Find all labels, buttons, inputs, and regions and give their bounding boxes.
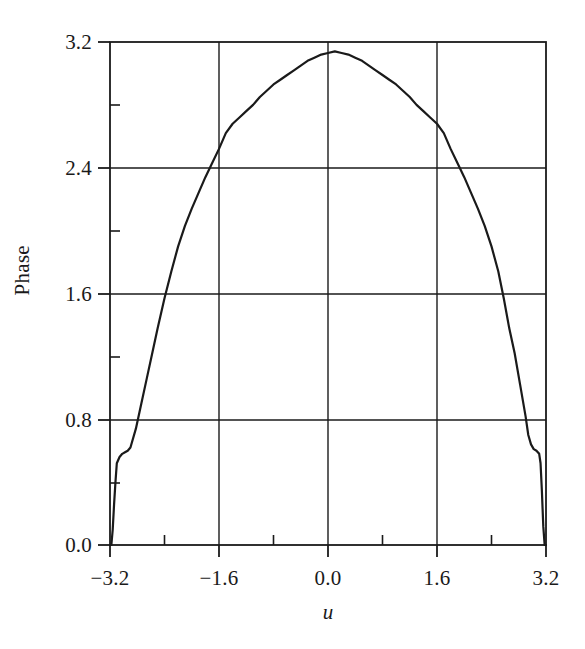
xtick-label-1.6: 1.6 [424,566,451,591]
xtick-label-0.0: 0.0 [315,566,342,591]
chart-figure: 3.2 2.4 1.6 0.8 0.0 −3.2 −1.6 0.0 1.6 3.… [0,0,585,649]
ytick-label-2.4: 2.4 [20,156,92,181]
ytick-label-0.0: 0.0 [20,533,92,558]
ytick-label-3.2: 3.2 [20,30,92,55]
ytick-label-0.8: 0.8 [20,408,92,433]
xtick-label--1.6: −1.6 [200,566,239,591]
xtick-label-3.2: 3.2 [533,566,560,591]
xtick-label--3.2: −3.2 [91,566,130,591]
x-axis-label: u [323,600,334,625]
y-axis-label: Phase [10,245,35,296]
